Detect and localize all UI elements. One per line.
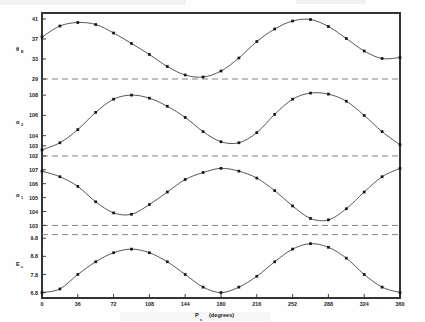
data-point-marker xyxy=(166,105,169,108)
data-point-marker xyxy=(41,149,44,152)
data-point-marker xyxy=(273,260,276,263)
data-point-marker xyxy=(363,273,366,276)
data-point-marker xyxy=(41,36,44,39)
data-point-marker xyxy=(130,213,133,216)
x-axis-tick-label: 324 xyxy=(360,301,369,307)
data-curve xyxy=(42,244,400,293)
data-point-marker xyxy=(202,286,205,289)
data-point-marker xyxy=(112,32,115,35)
data-point-marker xyxy=(59,141,62,144)
y-axis-tick-label: 29 xyxy=(32,76,38,82)
y-axis-tick-label: 6.8 xyxy=(31,290,39,296)
data-point-marker xyxy=(309,217,312,220)
data-curve xyxy=(42,19,400,77)
y-axis-label: α xyxy=(16,119,20,125)
panel-theta-E: 41373329θE xyxy=(16,16,401,82)
data-point-marker xyxy=(291,248,294,251)
data-point-marker xyxy=(202,171,205,174)
data-point-marker xyxy=(94,260,97,263)
x-axis-label-subscript: s xyxy=(200,317,202,322)
data-point-marker xyxy=(255,177,258,180)
y-axis-tick-label: 37 xyxy=(32,36,38,42)
y-axis-tick-label: 41 xyxy=(32,16,38,22)
y-axis-tick-label: 106 xyxy=(29,112,38,118)
x-axis-tick-label: 252 xyxy=(288,301,297,307)
x-axis-tick-label: 0 xyxy=(41,301,44,307)
data-point-marker xyxy=(59,25,62,28)
data-point-marker xyxy=(327,219,330,222)
data-point-marker xyxy=(309,92,312,95)
data-point-marker xyxy=(327,246,330,249)
data-point-marker xyxy=(345,100,348,103)
y-axis-label-subscript: c xyxy=(21,264,24,269)
x-axis-tick-label: 360 xyxy=(396,301,405,307)
panel-alpha-1: 107106105104103α1 xyxy=(16,167,401,229)
data-point-marker xyxy=(148,203,151,206)
x-axis-tick-label: 216 xyxy=(252,301,261,307)
y-axis-tick-label: 104 xyxy=(29,209,38,215)
y-axis-tick-label: 7.8 xyxy=(31,272,39,278)
y-axis-tick-label: 103 xyxy=(29,223,38,229)
data-point-marker xyxy=(94,23,97,26)
data-point-marker xyxy=(76,128,79,131)
data-point-marker xyxy=(381,130,384,133)
x-axis-tick-label: 72 xyxy=(111,301,117,307)
x-axis-tick-label: 36 xyxy=(75,301,81,307)
data-point-marker xyxy=(220,167,223,170)
data-point-marker xyxy=(363,50,366,53)
data-point-marker xyxy=(184,116,187,119)
data-point-marker xyxy=(255,131,258,134)
data-point-marker xyxy=(273,113,276,116)
data-point-marker xyxy=(363,114,366,117)
data-point-marker xyxy=(238,170,241,173)
data-point-marker xyxy=(112,251,115,254)
data-point-marker xyxy=(184,74,187,77)
x-axis-units: (degrees) xyxy=(209,312,234,318)
data-point-marker xyxy=(220,70,223,73)
panel-alpha-2: 108106104103102α2 xyxy=(16,92,401,159)
data-point-marker xyxy=(41,170,44,173)
y-axis-tick-label: 33 xyxy=(32,56,38,62)
data-point-marker xyxy=(273,28,276,31)
y-axis-tick-label: 107 xyxy=(29,167,38,173)
y-axis-tick-label: 108 xyxy=(29,92,38,98)
data-point-marker xyxy=(94,111,97,114)
x-axis-tick-label: 144 xyxy=(181,301,190,307)
data-point-marker xyxy=(238,286,241,289)
data-point-marker xyxy=(363,191,366,194)
data-point-marker xyxy=(130,248,133,251)
data-point-marker xyxy=(94,200,97,203)
data-point-marker xyxy=(148,251,151,254)
data-point-marker xyxy=(130,94,133,97)
data-point-marker xyxy=(166,191,169,194)
data-point-marker xyxy=(166,65,169,68)
data-point-marker xyxy=(148,97,151,100)
data-point-marker xyxy=(399,291,402,294)
data-point-marker xyxy=(76,185,79,188)
data-curve xyxy=(42,168,400,220)
data-point-marker xyxy=(291,98,294,101)
y-axis-label: α xyxy=(16,192,20,198)
y-axis-tick-label: 106 xyxy=(29,181,38,187)
y-axis-tick-label: 104 xyxy=(29,133,38,139)
x-axis-tick-label: 180 xyxy=(217,301,226,307)
data-point-marker xyxy=(291,205,294,208)
chart-svg: 41373329θE108106104103102α21071061051041… xyxy=(0,0,425,322)
data-point-marker xyxy=(309,242,312,245)
data-point-marker xyxy=(238,57,241,60)
data-point-marker xyxy=(381,175,384,178)
data-point-marker xyxy=(345,207,348,210)
data-point-marker xyxy=(381,286,384,289)
data-point-marker xyxy=(76,273,79,276)
data-point-marker xyxy=(255,275,258,278)
data-point-marker xyxy=(130,42,133,45)
data-point-marker xyxy=(112,98,115,101)
data-point-marker xyxy=(255,40,258,43)
y-axis-tick-label: 105 xyxy=(29,195,38,201)
multi-panel-plot: 41373329θE108106104103102α21071061051041… xyxy=(0,0,425,322)
y-axis-tick-label: 103 xyxy=(29,143,38,149)
data-point-marker xyxy=(202,76,205,79)
data-point-marker xyxy=(291,20,294,23)
data-point-marker xyxy=(273,189,276,192)
data-point-marker xyxy=(202,130,205,133)
